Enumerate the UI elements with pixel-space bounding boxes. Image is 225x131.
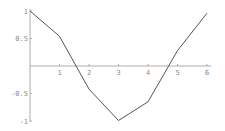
x-tick-label: 3: [116, 69, 120, 77]
y-tick-label: 1: [24, 8, 28, 16]
x-tick-label: 4: [146, 69, 150, 77]
x-tick-label: 1: [57, 69, 61, 77]
x-tick-label: 2: [87, 69, 91, 77]
line-chart: 123456 10.5-0.5-1: [0, 0, 225, 131]
x-tick-label: 5: [175, 69, 179, 77]
x-tick-label: 6: [205, 69, 209, 77]
y-tick-label: 0.5: [15, 35, 28, 43]
axes: [30, 9, 211, 122]
y-tick-label: -1: [20, 118, 28, 126]
y-ticks: 10.5-0.5-1: [11, 8, 32, 126]
y-tick-label: -0.5: [11, 90, 28, 98]
